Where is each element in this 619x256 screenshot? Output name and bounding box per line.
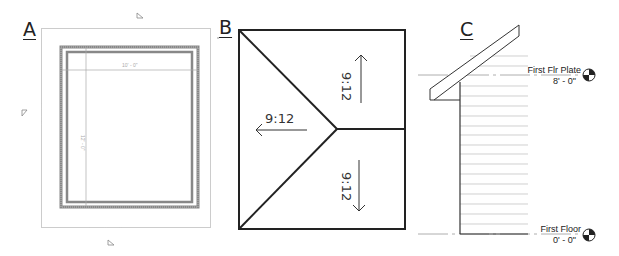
panel-a-floor-plan: A 10' - 0" 12' - 0" (0, 0, 215, 256)
panel-c-elevation: C (410, 0, 619, 256)
slope-label-upper-right: 9:12 (339, 72, 354, 101)
elevation-marker-icon (22, 110, 27, 116)
width-dimension: 10' - 0" (122, 62, 138, 68)
elevation-marker-icon (137, 13, 143, 18)
siding-lines (460, 56, 528, 224)
slope-label-lower-right: 9:12 (339, 172, 354, 201)
arrow-up-icon (355, 55, 367, 103)
depth-dimension: 12' - 0" (80, 135, 86, 151)
level-name-plate: First Flr Plate (527, 66, 581, 75)
level-name-floor: First Floor (541, 225, 582, 234)
level-elevation-floor: 0' - 0" (553, 236, 576, 245)
slope-label-left: 9:12 (265, 111, 294, 126)
roof-plan-drawing: 9:12 9:12 9:12 (215, 0, 410, 256)
level-marker-icon (583, 69, 595, 81)
level-elevation-plate: 8' - 0" (553, 77, 576, 86)
roof-rafter (430, 25, 519, 100)
panel-b-roof-plan: B 9:12 9:12 9:12 (215, 0, 410, 256)
elevation-drawing (410, 0, 619, 256)
elevation-marker-icon (108, 240, 114, 245)
level-marker-icon (583, 229, 595, 241)
floor-plan-drawing: 10' - 0" 12' - 0" (0, 0, 215, 256)
